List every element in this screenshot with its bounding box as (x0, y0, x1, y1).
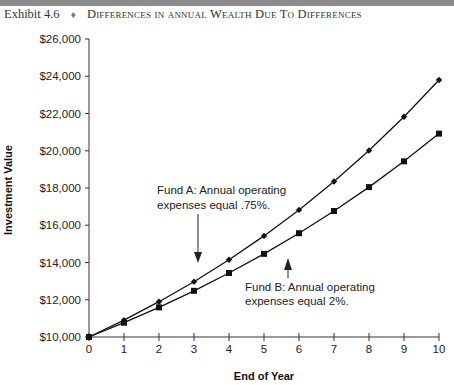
square-marker-icon (226, 270, 232, 276)
square-marker-icon (436, 131, 442, 137)
fund-b-annotation-line2: expenses equal 2%. (245, 295, 349, 307)
y-tick-label: $16,000 (39, 219, 81, 231)
x-tick-label: 5 (261, 343, 267, 355)
y-tick-label: $12,000 (39, 294, 81, 306)
x-tick-label: 2 (156, 343, 162, 355)
square-marker-icon (156, 304, 162, 310)
y-tick-label: $18,000 (39, 182, 81, 194)
x-tick-label: 1 (121, 343, 127, 355)
square-marker-icon (331, 208, 337, 214)
x-tick-label: 8 (366, 343, 372, 355)
x-axis-title: End of Year (234, 370, 295, 382)
fund-a-annotation-line1: Fund A: Annual operating (157, 184, 286, 196)
y-tick-label: $20,000 (39, 145, 81, 157)
square-marker-icon (121, 320, 127, 326)
down-arrow-icon (194, 252, 202, 263)
diamond-marker-icon (156, 299, 162, 305)
up-arrow-icon (284, 258, 292, 270)
fund-a-annotation-line2: expenses equal .75%. (157, 199, 270, 211)
x-tick-label: 3 (191, 343, 197, 355)
square-marker-icon (296, 230, 302, 236)
diamond-marker-icon (191, 278, 197, 284)
square-marker-icon (191, 288, 197, 294)
y-axis-title: Investment Value (2, 145, 14, 235)
x-tick-label: 7 (331, 343, 337, 355)
x-tick-label: 10 (433, 343, 446, 355)
square-marker-icon (86, 334, 92, 340)
x-tick-label: 4 (226, 343, 233, 355)
fund-b-annotation-line1: Fund B: Annual operating (245, 281, 375, 293)
x-tick-label: 0 (86, 343, 92, 355)
y-tick-label: $14,000 (39, 257, 81, 269)
square-marker-icon (401, 158, 407, 164)
y-tick-label: $26,000 (39, 33, 81, 45)
annotations: Fund A: Annual operatingexpenses equal .… (157, 184, 375, 307)
y-tick-label: $22,000 (39, 108, 81, 120)
y-tick-label: $10,000 (39, 331, 81, 343)
y-tick-label: $24,000 (39, 70, 81, 82)
line-chart: $10,000$12,000$14,000$16,000$18,000$20,0… (0, 0, 454, 385)
square-marker-icon (261, 251, 267, 257)
x-tick-label: 6 (296, 343, 302, 355)
square-marker-icon (366, 184, 372, 190)
x-tick-label: 9 (401, 343, 407, 355)
